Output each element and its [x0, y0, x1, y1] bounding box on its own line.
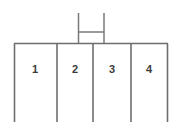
- diagram-canvas: 1 2 3 4: [0, 0, 181, 134]
- compartment-label-4: 4: [146, 64, 152, 75]
- handle-group: [79, 13, 105, 44]
- compartment-label-3: 3: [109, 64, 115, 75]
- diagram-svg: [0, 0, 181, 134]
- compartment-label-2: 2: [72, 64, 78, 75]
- compartment-label-1: 1: [32, 64, 38, 75]
- container-group: [14, 44, 168, 123]
